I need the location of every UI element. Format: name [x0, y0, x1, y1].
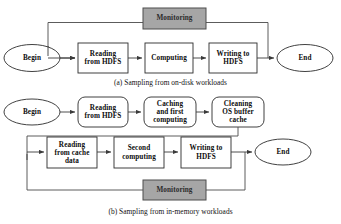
reading-hdfs-node-a[interactable] — [78, 43, 128, 73]
reading-cache-node-b[interactable] — [47, 137, 97, 168]
writing-hdfs-node-a[interactable] — [209, 43, 257, 73]
writing-hdfs-node-b[interactable] — [181, 137, 231, 168]
figure-container: Monitoring Begin Reading from HDFS Compu… — [0, 0, 341, 224]
diagram-canvas — [0, 0, 341, 224]
end-node-b[interactable] — [255, 139, 311, 165]
caching-node-b[interactable] — [144, 97, 196, 127]
caption-b: (b) Sampling from in-memory workloads — [0, 207, 341, 216]
caption-a: (a) Sampling from on-disk workloads — [0, 78, 341, 87]
cleaning-cache-node-b[interactable] — [212, 97, 264, 127]
reading-hdfs-node-b[interactable] — [78, 97, 128, 127]
monitoring-box-b[interactable] — [143, 180, 206, 200]
second-computing-node-b[interactable] — [114, 137, 164, 168]
computing-node-a[interactable] — [145, 43, 193, 73]
end-node-a[interactable] — [277, 45, 333, 72]
begin-node-b[interactable] — [4, 99, 60, 125]
monitoring-box-a[interactable] — [143, 8, 206, 29]
